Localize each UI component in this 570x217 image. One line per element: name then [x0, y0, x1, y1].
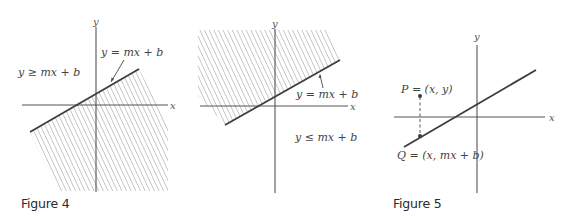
point-Q-label: Q = (x, mx + b)	[397, 149, 484, 162]
figure-4-right-panel: x y y = mx + b y ≤ mx + b	[195, 18, 358, 193]
x-axis-label: x	[549, 112, 555, 123]
y-axis-label: y	[271, 18, 278, 29]
region-inequality-label: y ≤ mx + b	[294, 131, 357, 144]
region-inequality-label: y ≥ mx + b	[17, 66, 80, 79]
y-axis-label: y	[473, 31, 480, 42]
x-axis-label: x	[170, 100, 176, 111]
line-equation-label: y = mx + b	[100, 46, 163, 59]
line-equation-label: y = mx + b	[295, 88, 358, 101]
figures-canvas: x y y = mx + b y ≥ mx + b x y y = mx + b…	[0, 0, 570, 217]
x-axis-label: x	[350, 101, 356, 112]
pointer-arrow-head	[318, 74, 321, 78]
figure-4-left-panel: x y y = mx + b y ≥ mx + b	[17, 16, 180, 200]
line-y-mx-b	[404, 70, 536, 147]
y-axis-label: y	[92, 16, 99, 27]
figure-5-panel: x y P = (x, y) Q = (x, mx + b)	[394, 31, 555, 193]
figure-5-caption: Figure 5	[393, 196, 442, 211]
point-P-label: P = (x, y)	[400, 83, 453, 96]
figure-4-caption: Figure 4	[21, 196, 70, 211]
hatched-region-above-line	[195, 25, 345, 135]
point-Q	[418, 134, 422, 138]
hatched-region-below-line	[20, 60, 180, 200]
